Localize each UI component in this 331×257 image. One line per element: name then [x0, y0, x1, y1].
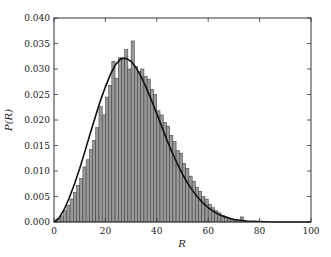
histogram-bar: [205, 199, 208, 222]
y-tick-label: 0.010: [24, 166, 50, 176]
histogram-bar: [121, 58, 124, 222]
histogram-bar: [67, 205, 70, 222]
histogram-bar: [102, 115, 105, 222]
y-tick-label: 0.015: [24, 141, 50, 151]
histogram-bar: [73, 192, 76, 222]
histogram-bar: [76, 185, 79, 222]
x-tick-label: 20: [100, 226, 112, 236]
histogram-bar: [115, 78, 118, 222]
histogram-bar: [144, 77, 147, 222]
histogram-bar: [189, 176, 192, 222]
histogram-bar: [109, 85, 112, 222]
histogram-chart: 020406080100 0.0000.0050.0100.0150.0200.…: [0, 0, 331, 257]
x-tick-label: 60: [202, 226, 214, 236]
x-tick-label: 40: [151, 226, 163, 236]
histogram-bar: [134, 66, 137, 222]
histogram-bar: [202, 197, 205, 223]
y-tick-label: 0.030: [24, 64, 50, 74]
y-axis-label: P(R): [3, 109, 14, 132]
histogram-bar: [157, 111, 160, 222]
histogram-bar: [183, 163, 186, 222]
histogram-bar: [118, 58, 121, 222]
histogram-bar: [60, 216, 63, 222]
y-tick-label: 0.025: [24, 90, 50, 100]
y-tick-label: 0.040: [24, 13, 50, 23]
histogram-bar: [208, 204, 211, 222]
histogram-bar: [141, 69, 144, 222]
histogram-bar: [105, 97, 108, 222]
y-tick-label: 0.020: [24, 115, 50, 125]
histogram-bar: [80, 179, 83, 222]
histogram-bar: [89, 150, 92, 222]
histogram-bar: [192, 181, 195, 222]
x-tick-label: 100: [302, 226, 319, 236]
histogram-bar: [93, 140, 96, 222]
histogram-bar: [147, 79, 150, 222]
histogram-bar: [112, 61, 115, 222]
x-tick-label: 80: [254, 226, 266, 236]
y-tick-label: 0.005: [24, 192, 50, 202]
histogram-bar: [70, 199, 73, 222]
histogram-bar: [128, 69, 131, 222]
histogram-bar: [138, 72, 141, 222]
histogram-bar: [195, 187, 198, 222]
x-tick-label: 0: [51, 226, 57, 236]
y-tick-label: 0.035: [24, 39, 50, 49]
bars-layer: [54, 41, 256, 222]
histogram-bar: [186, 168, 189, 222]
histogram-bar: [179, 153, 182, 222]
x-axis-label: R: [177, 238, 186, 249]
histogram-bar: [86, 160, 89, 222]
histogram-bar: [131, 41, 134, 222]
histogram-bar: [199, 191, 202, 222]
histogram-bar: [64, 211, 67, 222]
y-tick-label: 0.000: [24, 217, 50, 227]
histogram-bar: [99, 107, 102, 222]
histogram-bar: [96, 128, 99, 222]
histogram-bar: [125, 50, 128, 222]
histogram-bar: [83, 167, 86, 222]
histogram-bar: [150, 89, 153, 222]
